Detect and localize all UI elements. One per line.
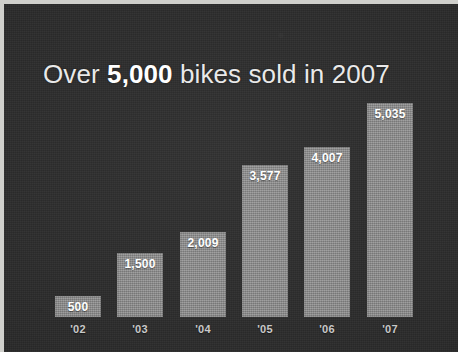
bar-value-label: 3,577 xyxy=(242,169,288,183)
bar-03: 1,500 xyxy=(117,253,163,317)
bar-group-02: 500 '02 xyxy=(55,296,101,317)
x-tick-label-07: '07 xyxy=(367,323,413,335)
bar-value-label: 5,035 xyxy=(367,107,413,121)
x-tick-label-02: '02 xyxy=(55,323,101,335)
x-tick-label-03: '03 xyxy=(117,323,163,335)
plot-area: 500 '02 1,500 '03 2,009 '04 3,577 xyxy=(4,4,458,352)
bar-05: 3,577 xyxy=(242,165,288,317)
bar-value-label: 4,007 xyxy=(304,151,350,165)
bar-group-07: 5,035 '07 xyxy=(367,103,413,317)
bar-07: 5,035 xyxy=(367,103,413,317)
x-tick-label-05: '05 xyxy=(242,323,288,335)
chart-figure: Over 5,000 bikes sold in 2007 500 '02 1,… xyxy=(0,0,458,352)
x-tick-label-04: '04 xyxy=(180,323,226,335)
bar-group-03: 1,500 '03 xyxy=(117,253,163,317)
bar-value-label: 2,009 xyxy=(180,236,226,250)
bar-06: 4,007 xyxy=(304,147,350,317)
bar-02: 500 xyxy=(55,296,101,317)
chart-panel: Over 5,000 bikes sold in 2007 500 '02 1,… xyxy=(4,4,458,352)
bar-value-label: 1,500 xyxy=(117,257,163,271)
bar-group-04: 2,009 '04 xyxy=(180,232,226,317)
x-tick-label-06: '06 xyxy=(304,323,350,335)
bar-value-label: 500 xyxy=(55,300,101,314)
bar-group-05: 3,577 '05 xyxy=(242,165,288,317)
bar-group-06: 4,007 '06 xyxy=(304,147,350,317)
bar-04: 2,009 xyxy=(180,232,226,317)
